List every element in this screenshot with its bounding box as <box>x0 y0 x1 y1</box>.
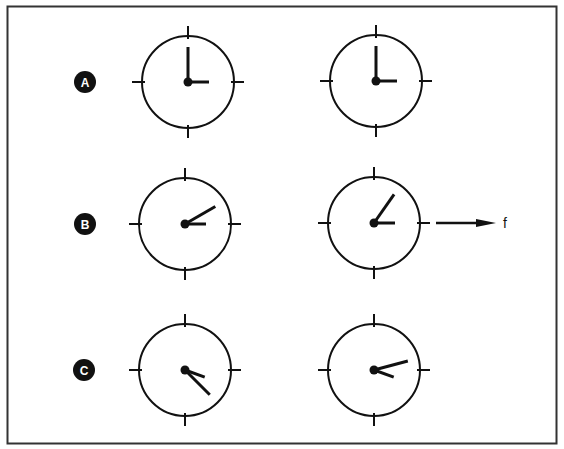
row-label: A <box>81 76 90 90</box>
force-label: f <box>503 215 507 231</box>
row-label-badge: B <box>74 213 96 235</box>
row-label: B <box>81 218 90 232</box>
clock-diagram: A B f C <box>0 0 564 449</box>
row-label: C <box>80 364 89 378</box>
center-pivot <box>370 219 379 228</box>
center-pivot <box>184 78 193 87</box>
row-label-badge: A <box>74 71 96 93</box>
row-label-badge: C <box>73 359 95 381</box>
center-pivot <box>370 366 379 375</box>
center-pivot <box>372 77 381 86</box>
center-pivot <box>181 366 190 375</box>
center-pivot <box>181 220 190 229</box>
